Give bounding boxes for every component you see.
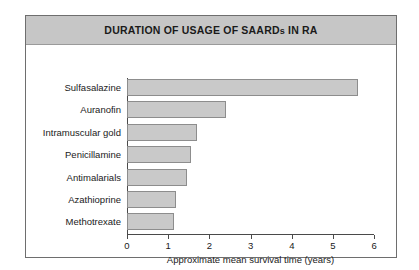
x-tick-5: [333, 235, 334, 239]
category-label-intramuscular-gold: Intramuscular gold: [26, 124, 121, 141]
category-label-methotrexate: Methotrexate: [26, 213, 121, 230]
title-tail-text: IN RA: [285, 24, 318, 36]
bar-row: Auranofin: [26, 101, 398, 123]
bar-intramuscular-gold: [127, 124, 197, 141]
bar-row: Penicillamine: [26, 146, 398, 168]
chart-figure: DURATION OF USAGE OF SAARDs IN RA 012345…: [25, 15, 397, 258]
chart-title-band: DURATION OF USAGE OF SAARDs IN RA: [26, 16, 396, 45]
x-tick-6: [374, 235, 375, 239]
x-tick-2: [209, 235, 210, 239]
x-axis-title: Approximate mean survival time (years): [127, 254, 374, 265]
bar-row: Sulfasalazine: [26, 79, 398, 101]
x-tick-0: [127, 235, 128, 239]
bar-row: Antimalarials: [26, 169, 398, 191]
category-label-sulfasalazine: Sulfasalazine: [26, 79, 121, 96]
bar-methotrexate: [127, 213, 174, 230]
page-title: DURATION OF USAGE OF SAARDs IN RA: [104, 24, 317, 36]
x-tick-label-1: 1: [158, 240, 178, 251]
bar-antimalarials: [127, 169, 187, 186]
x-tick-label-6: 6: [364, 240, 384, 251]
title-main-text: DURATION OF USAGE OF SAARD: [104, 24, 279, 36]
bar-row: Azathioprine: [26, 191, 398, 213]
x-tick-label-3: 3: [241, 240, 261, 251]
x-tick-label-5: 5: [323, 240, 343, 251]
plot-area: 0123456 SulfasalazineAuranofinIntramuscu…: [26, 46, 398, 258]
bar-row: Intramuscular gold: [26, 124, 398, 146]
x-tick-label-4: 4: [282, 240, 302, 251]
x-tick-4: [292, 235, 293, 239]
category-label-penicillamine: Penicillamine: [26, 146, 121, 163]
x-tick-label-0: 0: [117, 240, 137, 251]
category-label-auranofin: Auranofin: [26, 101, 121, 118]
category-label-azathioprine: Azathioprine: [26, 191, 121, 208]
x-tick-3: [251, 235, 252, 239]
bar-azathioprine: [127, 191, 176, 208]
x-tick-label-2: 2: [199, 240, 219, 251]
x-tick-1: [168, 235, 169, 239]
bar-auranofin: [127, 101, 226, 118]
bar-row: Methotrexate: [26, 213, 398, 235]
bar-penicillamine: [127, 146, 191, 163]
category-label-antimalarials: Antimalarials: [26, 169, 121, 186]
bar-sulfasalazine: [127, 79, 358, 96]
